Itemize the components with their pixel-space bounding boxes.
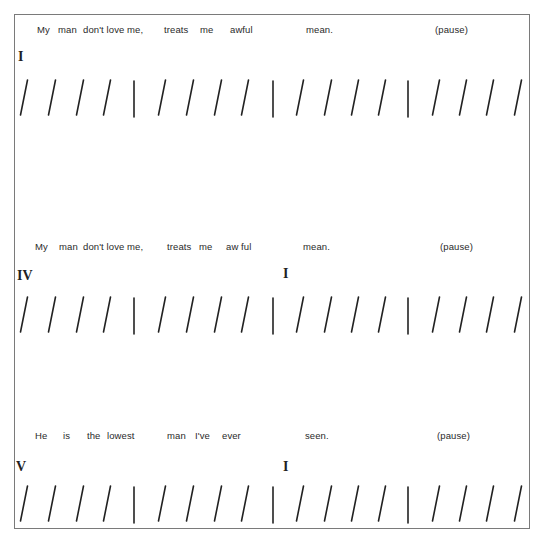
beat-slash-icon <box>215 486 222 521</box>
beat-slash-icon <box>159 297 166 332</box>
beat-slash-icon <box>460 486 467 521</box>
lyric-word: seen. <box>305 430 329 441</box>
beat-slash-icon <box>21 486 28 521</box>
lyric-word: mean. <box>306 24 333 35</box>
lyric-word: I've <box>195 430 210 441</box>
lyric-word: me <box>200 24 213 35</box>
beat-slash-icon <box>49 486 56 521</box>
lyric-word: man <box>59 241 78 252</box>
beat-slash-icon <box>77 297 84 332</box>
lyric-word: the <box>87 430 101 441</box>
beat-slash-icon <box>379 80 386 115</box>
beat-slash-icon <box>297 80 304 115</box>
lyric-word: ever <box>222 430 241 441</box>
lyric-word: treats <box>164 24 188 35</box>
beat-marks <box>0 80 549 124</box>
lyric-word: awful <box>230 24 253 35</box>
beat-slash-icon <box>77 80 84 115</box>
beat-slash-icon <box>379 486 386 521</box>
beat-slash-icon <box>242 297 249 332</box>
beat-slash-icon <box>325 486 332 521</box>
lyric-word: (pause) <box>435 24 468 35</box>
chord-numeral: IV <box>17 268 33 284</box>
beat-slash-icon <box>515 486 522 521</box>
beat-slash-icon <box>187 80 194 115</box>
beat-slash-icon <box>352 297 359 332</box>
beat-slash-icon <box>104 486 111 521</box>
beat-slash-icon <box>104 297 111 332</box>
beat-slash-icon <box>77 486 84 521</box>
beat-slash-icon <box>242 80 249 115</box>
beat-slash-icon <box>21 80 28 115</box>
beat-slash-icon <box>215 80 222 115</box>
beat-slash-icon <box>187 297 194 332</box>
beat-slash-icon <box>187 486 194 521</box>
beat-marks <box>0 486 549 530</box>
beat-slash-icon <box>352 486 359 521</box>
beat-slash-icon <box>487 297 494 332</box>
beat-slash-icon <box>487 80 494 115</box>
beat-slash-icon <box>297 297 304 332</box>
lyric-word: aw ful <box>226 241 251 252</box>
beat-slash-icon <box>352 80 359 115</box>
beat-slash-icon <box>21 297 28 332</box>
beat-slash-icon <box>515 297 522 332</box>
beat-slash-icon <box>433 486 440 521</box>
beat-slash-icon <box>215 297 222 332</box>
beat-slash-icon <box>487 486 494 521</box>
lyric-word: man <box>58 24 77 35</box>
beat-slash-icon <box>325 80 332 115</box>
beat-slash-icon <box>159 80 166 115</box>
beat-slash-icon <box>433 80 440 115</box>
beat-slash-icon <box>242 486 249 521</box>
beat-slash-icon <box>325 297 332 332</box>
beat-slash-icon <box>433 297 440 332</box>
lyric-word: don't love me, <box>83 24 143 35</box>
lyric-word: treats <box>167 241 191 252</box>
beat-slash-icon <box>515 80 522 115</box>
chord-numeral: V <box>16 459 26 475</box>
lyric-word: me <box>199 241 212 252</box>
beat-slash-icon <box>460 80 467 115</box>
beat-slash-icon <box>460 297 467 332</box>
beat-slash-icon <box>104 80 111 115</box>
beat-marks <box>0 297 549 341</box>
lyric-word: My <box>37 24 50 35</box>
lyric-word: is <box>63 430 70 441</box>
chord-numeral: I <box>283 459 288 475</box>
chord-numeral: I <box>283 266 288 282</box>
beat-slash-icon <box>379 297 386 332</box>
lyric-word: mean. <box>303 241 330 252</box>
lyric-word: My <box>35 241 48 252</box>
lyric-word: (pause) <box>437 430 470 441</box>
lyric-word: lowest <box>107 430 135 441</box>
lyric-word: man <box>167 430 186 441</box>
beat-slash-icon <box>297 486 304 521</box>
chord-numeral: I <box>18 49 23 65</box>
lyric-word: (pause) <box>440 241 473 252</box>
beat-slash-icon <box>159 486 166 521</box>
beat-slash-icon <box>49 297 56 332</box>
lyric-word: don't love me, <box>83 241 143 252</box>
beat-slash-icon <box>49 80 56 115</box>
lyric-word: He <box>35 430 47 441</box>
